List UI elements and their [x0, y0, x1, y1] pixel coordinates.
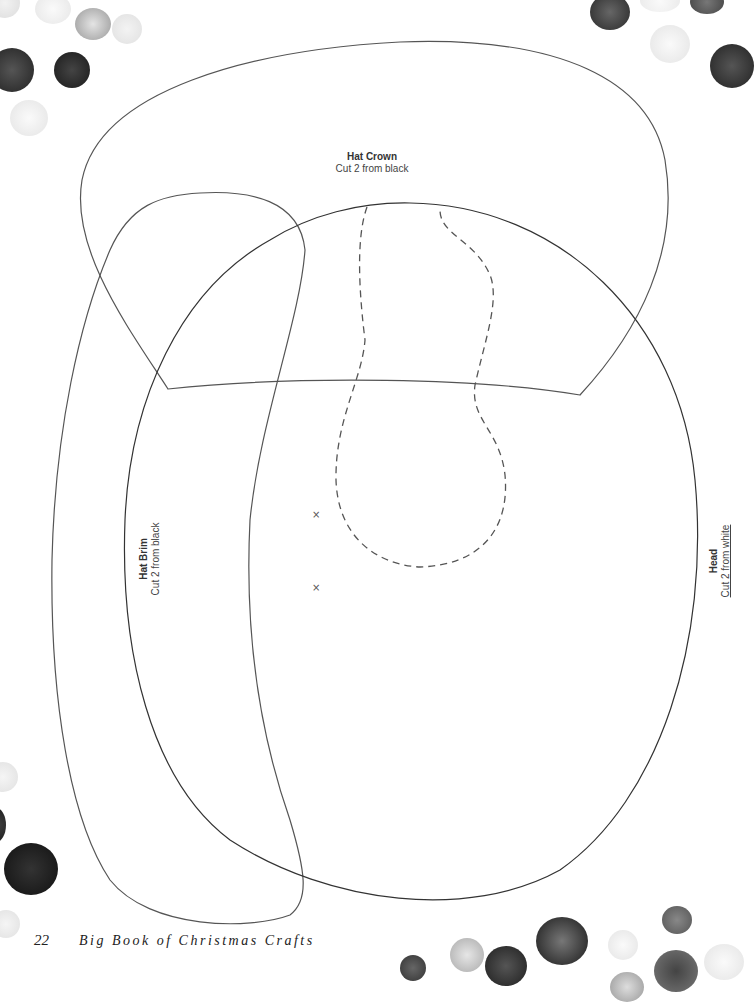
page-number: 22 — [34, 932, 49, 948]
book-title: Big Book of Christmas Crafts — [79, 933, 315, 948]
head-instruction: Cut 2 from white — [720, 511, 732, 611]
decorative-button-icon — [662, 906, 692, 934]
decorative-button-icon — [450, 938, 484, 972]
decorative-button-icon — [4, 843, 58, 895]
decorative-button-icon — [704, 944, 744, 980]
decorative-button-icon — [650, 25, 690, 63]
placement-x-marker: × — [312, 582, 320, 593]
decorative-button-icon — [485, 946, 527, 986]
hat-brim-outline — [52, 193, 305, 924]
decorative-button-icon — [112, 14, 142, 44]
decorative-button-icon — [400, 955, 426, 981]
decorative-button-icon — [10, 100, 48, 136]
head-label: Head Cut 2 from white — [708, 511, 732, 611]
head-title: Head — [708, 511, 720, 611]
hat-brim-instruction: Cut 2 from black — [150, 509, 162, 609]
dashed-guide-line — [336, 207, 506, 567]
hat-crown-label: Hat Crown Cut 2 from black — [322, 151, 422, 175]
decorative-button-icon — [710, 44, 754, 88]
decorative-button-icon — [654, 950, 698, 992]
page-footer: 22Big Book of Christmas Crafts — [34, 932, 315, 949]
decorative-button-icon — [75, 8, 111, 40]
hat-crown-instruction: Cut 2 from black — [322, 163, 422, 175]
decorative-button-icon — [536, 917, 588, 965]
hat-brim-title: Hat Brim — [138, 509, 150, 609]
hat-brim-label: Hat Brim Cut 2 from black — [138, 509, 162, 609]
hat-crown-outline — [80, 41, 668, 395]
decorative-button-icon — [54, 52, 90, 88]
hat-crown-title: Hat Crown — [322, 151, 422, 163]
decorative-button-icon — [608, 930, 638, 960]
placement-x-marker: × — [312, 509, 320, 520]
head-outline — [124, 203, 697, 900]
decorative-button-icon — [610, 972, 644, 1002]
